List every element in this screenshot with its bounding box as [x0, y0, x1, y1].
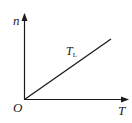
n-vs-T-diagram: n T O TL — [0, 0, 132, 123]
origin-label: O — [13, 100, 23, 115]
line-label-sub: L — [73, 51, 77, 59]
line-label: TL — [66, 44, 77, 59]
y-axis-label: n — [13, 13, 20, 28]
x-axis-label: T — [118, 103, 126, 118]
